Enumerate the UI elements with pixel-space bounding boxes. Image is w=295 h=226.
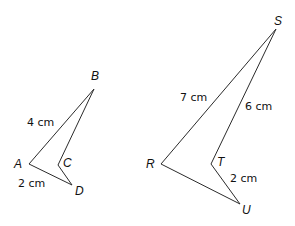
vertex-label-u: U — [242, 203, 251, 217]
vertex-label-r: R — [146, 157, 155, 171]
figure-rstu: R S T U 7 cm 6 cm 2 cm — [146, 14, 282, 217]
polygon-rstu — [161, 29, 276, 204]
length-label-ab: 4 cm — [27, 116, 54, 129]
vertex-label-d: D — [75, 184, 84, 198]
diagram-canvas: A B C D 4 cm 2 cm R S T U 7 cm 6 cm 2 cm — [0, 0, 295, 226]
length-label-tu: 2 cm — [230, 172, 257, 185]
figure-abcd: A B C D 4 cm 2 cm — [13, 69, 99, 198]
vertex-label-t: T — [217, 155, 226, 169]
polygon-abcd — [29, 89, 94, 185]
vertex-label-s: S — [274, 14, 282, 28]
length-label-st: 6 cm — [245, 100, 272, 113]
vertex-label-b: B — [91, 69, 99, 83]
vertex-label-c: C — [63, 156, 72, 170]
length-label-rs: 7 cm — [180, 91, 207, 104]
vertex-label-a: A — [13, 157, 22, 171]
length-label-ad: 2 cm — [18, 177, 45, 190]
